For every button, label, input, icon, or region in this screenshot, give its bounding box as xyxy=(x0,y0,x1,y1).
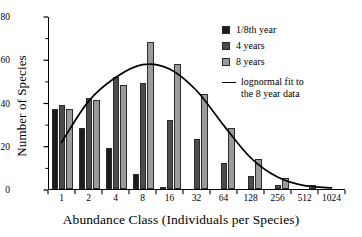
bar xyxy=(194,139,201,189)
x-tick-label: 2 xyxy=(86,193,91,203)
bar xyxy=(93,100,100,189)
legend-item-fit-line: lognormal fit to the 8 year data xyxy=(222,76,304,101)
y-tick-label: 80 xyxy=(0,12,10,22)
legend-line-icon xyxy=(222,82,236,83)
y-tick-label: 60 xyxy=(0,55,10,65)
bar xyxy=(282,178,289,189)
chart-legend: 1/8th year 4 years 8 years lognormal fit… xyxy=(222,24,304,104)
x-tick-label: 4 xyxy=(113,193,118,203)
bar xyxy=(140,83,147,189)
bar xyxy=(255,159,262,189)
x-tick-label: 64 xyxy=(219,193,229,203)
bar xyxy=(106,148,113,189)
bar xyxy=(201,94,208,189)
x-tick-label: 32 xyxy=(192,193,202,203)
chart-figure: Number of Species Abundance Class (Indiv… xyxy=(0,0,362,237)
legend-item-series-2: 8 years xyxy=(222,56,304,69)
bar xyxy=(79,128,86,189)
legend-label: 1/8th year xyxy=(236,24,276,37)
bar xyxy=(174,64,181,189)
x-tick-label: 512 xyxy=(297,193,311,203)
bar xyxy=(59,105,66,189)
bar xyxy=(248,176,255,189)
bar xyxy=(52,109,59,189)
bar xyxy=(221,163,228,189)
x-tick-label: 16 xyxy=(165,193,175,203)
y-axis-title: Number of Species xyxy=(14,26,30,186)
x-axis-title: Abundance Class (Individuals per Species… xyxy=(0,212,362,228)
legend-swatch-icon xyxy=(222,42,230,50)
bar xyxy=(309,185,316,189)
x-tick-label: 1024 xyxy=(322,193,341,203)
y-tick-label: 0 xyxy=(0,185,10,195)
y-tick-label: 40 xyxy=(0,99,10,109)
x-tick-label: 8 xyxy=(140,193,145,203)
bar xyxy=(133,174,140,189)
legend-item-series-1: 4 years xyxy=(222,40,304,53)
bar xyxy=(228,128,235,189)
bar xyxy=(160,187,167,189)
bar xyxy=(120,85,127,189)
legend-label: lognormal fit to the 8 year data xyxy=(241,76,304,101)
bar xyxy=(113,77,120,189)
legend-item-series-0: 1/8th year xyxy=(222,24,304,37)
legend-label: 8 years xyxy=(236,56,265,69)
x-tick-label: 1 xyxy=(59,193,64,203)
legend-swatch-icon xyxy=(222,26,230,34)
legend-label: 4 years xyxy=(236,40,265,53)
x-tick-label: 256 xyxy=(270,193,284,203)
bar xyxy=(147,42,154,189)
bar xyxy=(275,185,282,189)
legend-swatch-icon xyxy=(222,58,230,66)
bar xyxy=(86,98,93,189)
x-tick-label: 128 xyxy=(243,193,257,203)
y-tick-label: 20 xyxy=(0,142,10,152)
bar xyxy=(167,120,174,189)
bar xyxy=(66,109,73,189)
